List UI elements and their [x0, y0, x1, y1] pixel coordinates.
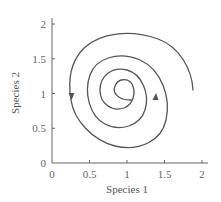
x-tick-1.5: 1.5 [158, 168, 172, 180]
x-tick-1: 1 [124, 168, 130, 180]
phase-plot: 0 0.5 1 1.5 2 0 0.5 1 1.5 2 Species 1 Sp… [0, 0, 221, 202]
x-tick-0: 0 [49, 168, 55, 180]
y-tick-labels: 0 0.5 1 1.5 2 [32, 18, 46, 169]
x-tick-2: 2 [199, 168, 205, 180]
y-tick-1.5: 1.5 [32, 53, 46, 65]
y-tick-0: 0 [41, 157, 47, 169]
y-tick-2: 2 [41, 18, 47, 30]
y-tick-0.5: 0.5 [32, 122, 46, 134]
spiral-trajectory [70, 33, 193, 147]
y-tick-1: 1 [41, 88, 47, 100]
x-tick-0.5: 0.5 [83, 168, 97, 180]
y-axis-label: Species 2 [9, 72, 21, 114]
arrow-up-icon [153, 93, 159, 100]
x-axis-label: Species 1 [106, 183, 148, 195]
axes [52, 18, 208, 163]
arrow-down-icon [69, 93, 75, 100]
x-tick-labels: 0 0.5 1 1.5 2 [49, 168, 205, 180]
